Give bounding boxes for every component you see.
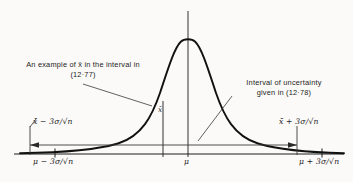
interval-arrowhead-right (288, 142, 297, 148)
label-mu-plus-3sigma: μ + 3σ/√n (299, 157, 339, 166)
right-annotation-line2: given in (12·78) (222, 88, 346, 98)
interval-arrowhead-left (30, 142, 39, 148)
right-annotation-note: Interval of uncertainty given in (12·78) (222, 78, 346, 98)
left-annotation-note: An example of x̄ in the interval in (12·… (8, 60, 158, 80)
label-xbar-plus-3sigma: x̄ + 3σ/√n (279, 117, 319, 126)
label-mu: μ (184, 157, 189, 166)
figure-root: An example of x̄ in the interval in (12·… (0, 0, 353, 182)
left-annotation-line2: (12·77) (8, 70, 158, 80)
left-note-leader-line (83, 84, 152, 106)
right-annotation-line1: Interval of uncertainty (246, 78, 321, 87)
left-annotation-line1: An example of x̄ in the interval in (26, 60, 140, 69)
label-mu-minus-3sigma: μ − 3σ/√n (33, 157, 73, 166)
label-xbar: x̄ (158, 105, 162, 114)
label-xbar-minus-3sigma: x̄ − 3σ/√n (33, 117, 73, 126)
